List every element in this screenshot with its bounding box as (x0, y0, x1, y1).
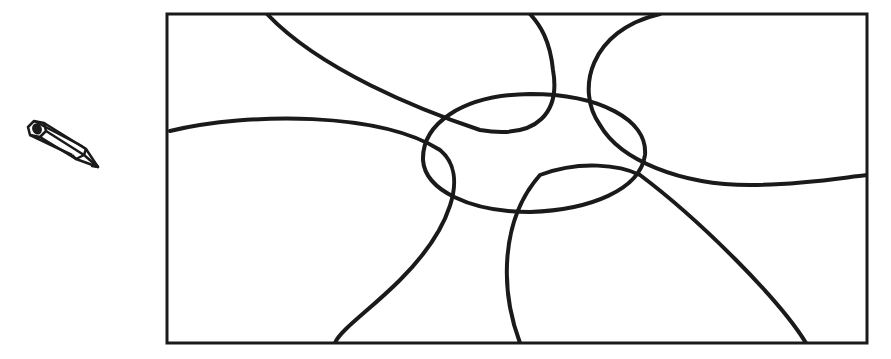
curve-2 (170, 119, 454, 343)
curve-1 (267, 14, 554, 132)
curve-3 (589, 14, 867, 185)
curve-figure (0, 0, 891, 359)
figure-frame (167, 14, 867, 343)
curves-group (170, 14, 867, 343)
curve-4 (507, 166, 806, 343)
curve-5 (423, 94, 645, 212)
